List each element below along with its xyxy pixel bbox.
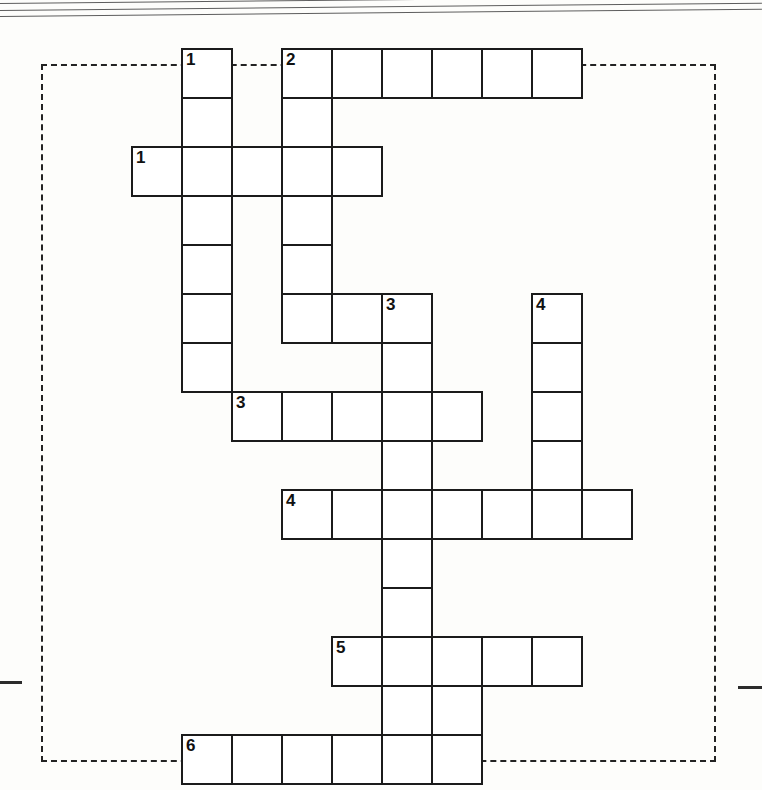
- crossword-cell[interactable]: [431, 391, 483, 442]
- crossword-cell[interactable]: [331, 489, 383, 540]
- crossword-cell-start-6[interactable]: 6: [181, 734, 233, 785]
- crossword-cell-start-3[interactable]: 3: [231, 391, 283, 442]
- crossword-cell[interactable]: [231, 734, 283, 785]
- crossword-cell[interactable]: [181, 97, 233, 148]
- crossword-cell[interactable]: [531, 440, 583, 491]
- crossword-cell[interactable]: [381, 489, 433, 540]
- crossword-cell[interactable]: [381, 685, 433, 736]
- crossword-cell-start-5[interactable]: 5: [331, 636, 383, 687]
- crossword-cell[interactable]: [181, 195, 233, 246]
- crossword-cell[interactable]: [531, 636, 583, 687]
- crossword-cell[interactable]: [531, 391, 583, 442]
- crossword-cell[interactable]: [481, 489, 533, 540]
- crossword-cell[interactable]: [431, 489, 483, 540]
- crossword-cell-start-1[interactable]: 1: [181, 48, 233, 99]
- crossword-cell[interactable]: [331, 391, 383, 442]
- crossword-cell[interactable]: [481, 636, 533, 687]
- crossword-cell[interactable]: [281, 391, 333, 442]
- left-edge-tick: [0, 681, 22, 684]
- crossword-cell[interactable]: [381, 48, 433, 99]
- clue-number: 5: [336, 638, 345, 657]
- crossword-cell[interactable]: [381, 440, 433, 491]
- crossword-cell[interactable]: [331, 146, 383, 197]
- crossword-cell[interactable]: [181, 342, 233, 393]
- crossword-cell[interactable]: [381, 342, 433, 393]
- crossword-cell[interactable]: [331, 48, 383, 99]
- crossword-cell[interactable]: [181, 244, 233, 295]
- clue-number: 4: [536, 295, 545, 314]
- crossword-cell[interactable]: [181, 293, 233, 344]
- crossword-cell[interactable]: [431, 636, 483, 687]
- crossword-cell[interactable]: [381, 587, 433, 638]
- right-edge-tick: [738, 686, 762, 689]
- crossword-cell-start-4[interactable]: 4: [531, 293, 583, 344]
- crossword-cell-start-1[interactable]: 1: [131, 146, 183, 197]
- crossword-cell-start-2[interactable]: 2: [281, 48, 333, 99]
- crossword-cell[interactable]: [481, 48, 533, 99]
- clue-number: 3: [236, 393, 245, 412]
- crossword-cell[interactable]: [381, 636, 433, 687]
- clue-number: 3: [386, 295, 395, 314]
- crossword-cell[interactable]: [331, 293, 383, 344]
- crossword-cell[interactable]: [431, 734, 483, 785]
- crossword-cell[interactable]: [431, 48, 483, 99]
- clue-number: 4: [286, 491, 295, 510]
- crossword-cell[interactable]: [381, 734, 433, 785]
- crossword-cell[interactable]: [181, 146, 233, 197]
- crossword-cell-start-4[interactable]: 4: [281, 489, 333, 540]
- crossword-cell[interactable]: [381, 391, 433, 442]
- crossword-cell[interactable]: [531, 489, 583, 540]
- crossword-cell[interactable]: [281, 293, 333, 344]
- scan-line-top-3: [0, 9, 762, 17]
- crossword-cell[interactable]: [281, 97, 333, 148]
- crossword-cell-start-3[interactable]: 3: [381, 293, 433, 344]
- crossword-page: 121343456: [0, 0, 762, 790]
- crossword-cell[interactable]: [281, 734, 333, 785]
- crossword-cell[interactable]: [531, 342, 583, 393]
- crossword-cell[interactable]: [581, 489, 633, 540]
- clue-number: 2: [286, 50, 295, 69]
- crossword-cell[interactable]: [281, 195, 333, 246]
- crossword-cell[interactable]: [331, 734, 383, 785]
- crossword-cell[interactable]: [431, 685, 483, 736]
- crossword-cell[interactable]: [381, 538, 433, 589]
- crossword-cell[interactable]: [281, 244, 333, 295]
- crossword-cell[interactable]: [231, 146, 283, 197]
- clue-number: 1: [186, 50, 195, 69]
- crossword-cell[interactable]: [281, 146, 333, 197]
- clue-number: 1: [136, 148, 145, 167]
- crossword-cell[interactable]: [531, 48, 583, 99]
- clue-number: 6: [186, 736, 195, 755]
